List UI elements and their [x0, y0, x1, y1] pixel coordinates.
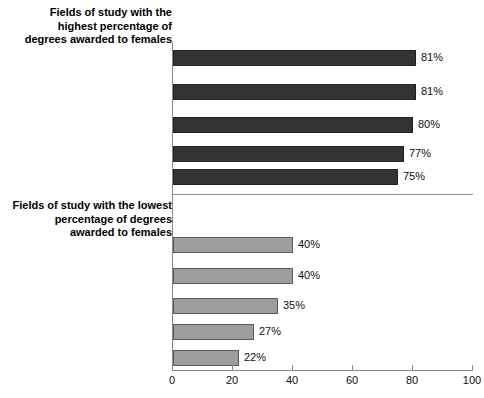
- x-axis-tick-mark: [292, 365, 293, 371]
- bar-value-label: 40%: [298, 238, 320, 250]
- x-axis-tick-mark: [172, 365, 173, 371]
- x-axis-line: [172, 370, 473, 371]
- bar-value-label: 40%: [298, 269, 320, 281]
- high-group-heading: Fields of study with the highest percent…: [8, 6, 172, 47]
- low-group-heading: Fields of study with the lowest percenta…: [0, 199, 172, 240]
- x-axis-tick-label: 0: [157, 374, 187, 386]
- bar: [173, 84, 416, 100]
- x-axis-tick-label: 40: [277, 374, 307, 386]
- bar-value-label: 81%: [421, 51, 443, 63]
- bar: [173, 324, 254, 340]
- bar-value-label: 77%: [409, 147, 431, 159]
- bar-value-label: 81%: [421, 85, 443, 97]
- bar: [173, 268, 293, 284]
- x-axis-tick-mark: [232, 365, 233, 371]
- group-divider-line: [173, 194, 473, 195]
- x-axis-tick-label: 60: [337, 374, 367, 386]
- bar-value-label: 27%: [259, 325, 281, 337]
- x-axis-tick-mark: [412, 365, 413, 371]
- x-axis-tick-mark: [472, 365, 473, 371]
- bar-chart: Fields of study with the highest percent…: [0, 0, 484, 398]
- x-axis-tick-mark: [352, 365, 353, 371]
- bar: [173, 50, 416, 66]
- bar: [173, 146, 404, 162]
- x-axis-tick-label: 100: [457, 374, 484, 386]
- bar: [173, 169, 398, 185]
- bar-value-label: 22%: [244, 351, 266, 363]
- x-axis-tick-label: 20: [217, 374, 247, 386]
- bar: [173, 350, 239, 366]
- bar-value-label: 35%: [283, 299, 305, 311]
- bar: [173, 298, 278, 314]
- bar: [173, 117, 413, 133]
- x-axis-tick-label: 80: [397, 374, 427, 386]
- bar: [173, 237, 293, 253]
- bar-value-label: 75%: [403, 170, 425, 182]
- bar-value-label: 80%: [418, 118, 440, 130]
